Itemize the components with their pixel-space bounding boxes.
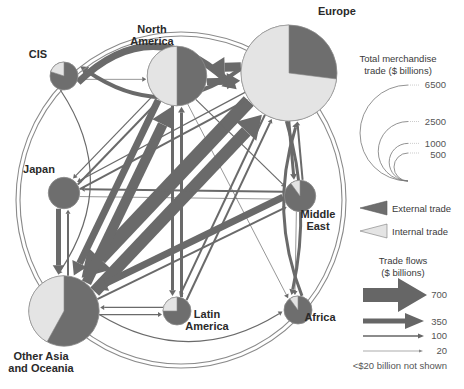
flow-line [106,197,283,283]
flow-arrow-700-icon [363,278,427,312]
legend-flows-title-1: Trade flows [379,255,428,266]
flow-other-asia-to-latin-america [99,312,162,317]
flow-japan-to-other-asia [53,209,65,275]
flow-latin-america-to-other-asia [100,305,163,310]
legend-flow-value-100: 100 [431,330,447,341]
legend-size-title-1: Total merchandise [359,53,436,64]
region-label-europe: Europe [318,5,356,17]
legend-footnote: <$20 billion not shown [353,360,447,371]
region-label-cis: CIS [29,48,47,60]
legend-size: Total merchandise trade ($ billions) 650… [359,53,446,181]
node-japan [48,177,79,208]
flow-arrowhead-100-icon [418,334,424,339]
internal-trade-swatch-icon [360,224,387,238]
legend-size-title-2: trade ($ billions) [364,65,432,76]
legend-size-arc-1000 [389,143,408,181]
legend-size-value-2500: 2500 [425,116,446,127]
flow-arrowhead [100,305,104,310]
pie-external-slice [48,177,79,208]
node-north-america [147,46,207,106]
legend-size-value-500: 500 [430,149,446,160]
legend-flow-value-350: 350 [431,316,447,327]
legend-flows-title-2: ($ billions) [381,267,424,278]
region-label-latin-america: America [185,320,229,332]
node-other-asia [29,276,99,346]
region-label-middle-east: Middle [301,208,336,220]
legend-size-value-1000: 1000 [425,138,446,149]
legend-flow-value-700: 700 [431,289,447,300]
flow-line [207,81,227,82]
flow-line [181,115,264,292]
pie-internal-slice [163,297,177,311]
region-label-other-asia: Other Asia [13,350,69,362]
node-europe [241,25,337,121]
flow-arrowhead [290,174,297,180]
flow-arrowhead [66,210,71,214]
legend-flow-value-20: 20 [436,345,447,356]
region-label-japan: Japan [23,163,55,175]
region-label-latin-america: Latin [194,308,221,320]
flow-arrowhead [169,290,176,296]
legend-internal-label: Internal trade [392,226,448,237]
flow-arrowhead [178,107,185,113]
flow-arrow-350-icon [363,313,424,329]
region-label-africa: Africa [304,311,336,323]
region-label-north-america: North [137,23,167,35]
legend-flows: Trade flows ($ billions) 700 350 100 20 … [353,255,447,371]
legend-size-value-6500: 6500 [425,79,446,90]
region-label-middle-east: East [306,220,330,232]
external-trade-swatch-icon [360,201,387,215]
region-label-north-america: America [130,35,174,47]
flow-arrowhead [142,77,146,82]
legend-trade-type: External trade Internal trade [360,201,451,238]
legend-size-arcs [360,85,420,181]
flow-arrowhead [158,312,162,317]
flow-arrowhead-20-icon [419,350,423,353]
region-label-other-asia: and Oceania [8,362,74,374]
node-cis [50,62,78,90]
legend-external-label: External trade [392,203,451,214]
flow-europe-to-latin-america [179,115,265,296]
flow-other-asia-to-japan [66,210,71,276]
trade-flow-diagram: EuropeNorthAmericaCISJapanMiddleEastOthe… [0,0,464,389]
